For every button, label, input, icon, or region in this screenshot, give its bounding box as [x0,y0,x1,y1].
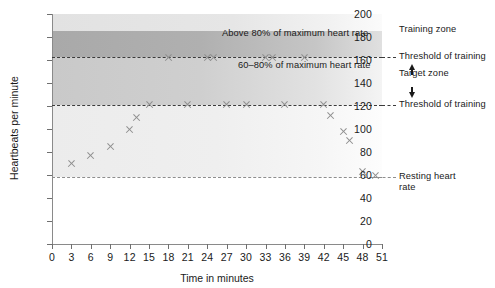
x-tick-label: 39 [298,251,310,263]
x-tick-label: 30 [240,251,252,263]
data-point [125,125,134,134]
x-tick-label: 6 [88,251,94,263]
x-tick-mark [246,244,247,249]
x-tick-mark [52,244,53,249]
data-point [183,100,192,109]
x-tick-mark [304,244,305,249]
data-point [319,100,328,109]
y-tick-label: 120 [346,100,372,112]
above-80-label: Above 80% of maximum heart rate [222,28,368,38]
data-point [280,100,289,109]
y-tick-mark [47,129,52,130]
y-tick-label: 100 [346,123,372,135]
x-tick-label: 0 [49,251,55,263]
y-tick-mark [47,106,52,107]
x-tick-mark [363,244,364,249]
y-tick-label: 20 [346,215,372,227]
resting-leader [372,177,396,178]
x-tick-label: 48 [357,251,369,263]
sixty-to-eighty-label: 60–80% of maximum heart rate [238,60,371,70]
data-point [326,111,335,120]
x-tick-label: 21 [182,251,194,263]
data-point [222,100,231,109]
y-axis-line [52,14,53,244]
y-tick-label: 80 [346,146,372,158]
upper-threshold-leader [382,57,396,58]
arrow-stem-lower [411,87,412,93]
x-tick-mark [285,244,286,249]
y-tick-mark [47,14,52,15]
x-tick-label: 33 [259,251,271,263]
x-tick-label: 18 [162,251,174,263]
lower-threshold-leader [382,105,396,106]
x-tick-mark [168,244,169,249]
x-tick-label: 36 [279,251,291,263]
y-tick-mark [47,175,52,176]
x-tick-label: 12 [124,251,136,263]
y-axis-title: Heartbeats per minute [8,76,20,180]
resting-label: Resting heart rate [399,171,463,193]
x-tick-mark [71,244,72,249]
data-point [164,53,173,62]
x-tick-mark [266,244,267,249]
chart-figure: Heartbeats per minute Time in minutes 02… [0,0,495,288]
target-zone-label: Target zone [399,68,449,78]
x-tick-mark [227,244,228,249]
arrow-stem-upper [411,69,412,75]
y-tick-mark [47,83,52,84]
y-tick-mark [47,198,52,199]
training-zone-label: Training zone [399,24,456,34]
y-tick-label: 40 [346,192,372,204]
y-axis-title-wrapper: Heartbeats per minute [12,0,13,244]
x-tick-mark [343,244,344,249]
data-point [67,159,76,168]
data-point [345,136,354,145]
x-tick-mark [130,244,131,249]
y-tick-mark [47,152,52,153]
x-tick-label: 3 [68,251,74,263]
x-axis-line [52,244,382,245]
data-point [209,53,218,62]
lower-threshold-label: Threshold of training [399,99,486,109]
x-tick-mark [324,244,325,249]
y-tick-label: 200 [346,8,372,20]
data-point [242,100,251,109]
x-tick-label: 51 [376,251,388,263]
x-tick-mark [207,244,208,249]
x-tick-mark [382,244,383,249]
plot-area: 020406080100120140160180200 036912151821… [52,14,382,244]
y-tick-mark [47,60,52,61]
y-tick-label: 140 [346,77,372,89]
x-tick-mark [91,244,92,249]
x-tick-label: 9 [107,251,113,263]
x-tick-label: 45 [337,251,349,263]
x-tick-label: 27 [221,251,233,263]
x-tick-mark [188,244,189,249]
x-tick-label: 42 [318,251,330,263]
y-tick-mark [47,37,52,38]
data-point [132,113,141,122]
x-tick-label: 15 [143,251,155,263]
y-tick-label: 60 [346,169,372,181]
y-tick-label: 0 [346,238,372,250]
x-tick-mark [110,244,111,249]
y-tick-mark [47,221,52,222]
data-point [145,100,154,109]
data-point [86,151,95,160]
upper-threshold-label: Threshold of training [399,51,486,61]
reference-line-resting-heart-rate [52,177,382,178]
x-tick-mark [149,244,150,249]
x-tick-label: 24 [201,251,213,263]
x-axis-title: Time in minutes [180,272,254,284]
data-point [106,142,115,151]
reference-line-lower-threshold [52,105,382,106]
